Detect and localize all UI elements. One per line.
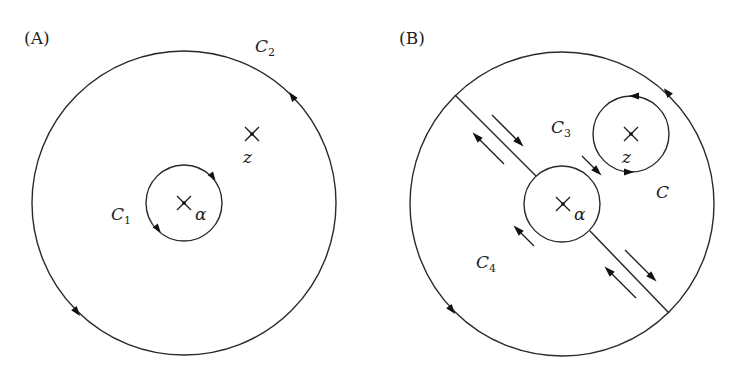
point-alpha-marker <box>556 197 570 211</box>
arrow-up-left-icon <box>470 130 504 164</box>
contour-c2-label: C2 <box>255 36 275 59</box>
region-c3-label: C3 <box>551 117 571 140</box>
point-alpha-label: α <box>574 204 586 224</box>
region-c4-label: C4 <box>476 252 496 275</box>
panel-b-label: (B) <box>399 28 425 48</box>
arrow-up-left-icon <box>602 264 636 298</box>
cut-line-upper <box>455 95 536 176</box>
panel-a-label: (A) <box>24 28 50 48</box>
contour-c1-label: C1 <box>111 204 131 227</box>
arrow-head-icon <box>208 171 218 182</box>
point-z-label: z <box>242 147 253 167</box>
point-z-label: z <box>621 147 632 167</box>
arrow-head-icon <box>661 86 673 98</box>
arrow-head-icon <box>624 169 634 176</box>
cut-line-lower <box>590 231 669 313</box>
panel-b: (B) <box>399 28 714 356</box>
arrow-head-icon <box>446 304 458 316</box>
arrow-down-right-icon <box>492 115 526 149</box>
point-z-marker <box>245 127 259 141</box>
contour-c-label: C <box>656 182 669 202</box>
contour-diagram: (A) α z C1 C2 (B) <box>0 0 732 377</box>
arrow-down-right-icon <box>625 250 659 284</box>
point-z-marker <box>624 127 638 141</box>
point-alpha-marker <box>177 196 191 210</box>
arrow-head-icon <box>153 223 164 234</box>
arrow-head-icon <box>629 93 639 100</box>
panel-a: (A) α z C1 C2 <box>24 28 336 355</box>
point-alpha-label: α <box>195 204 207 224</box>
